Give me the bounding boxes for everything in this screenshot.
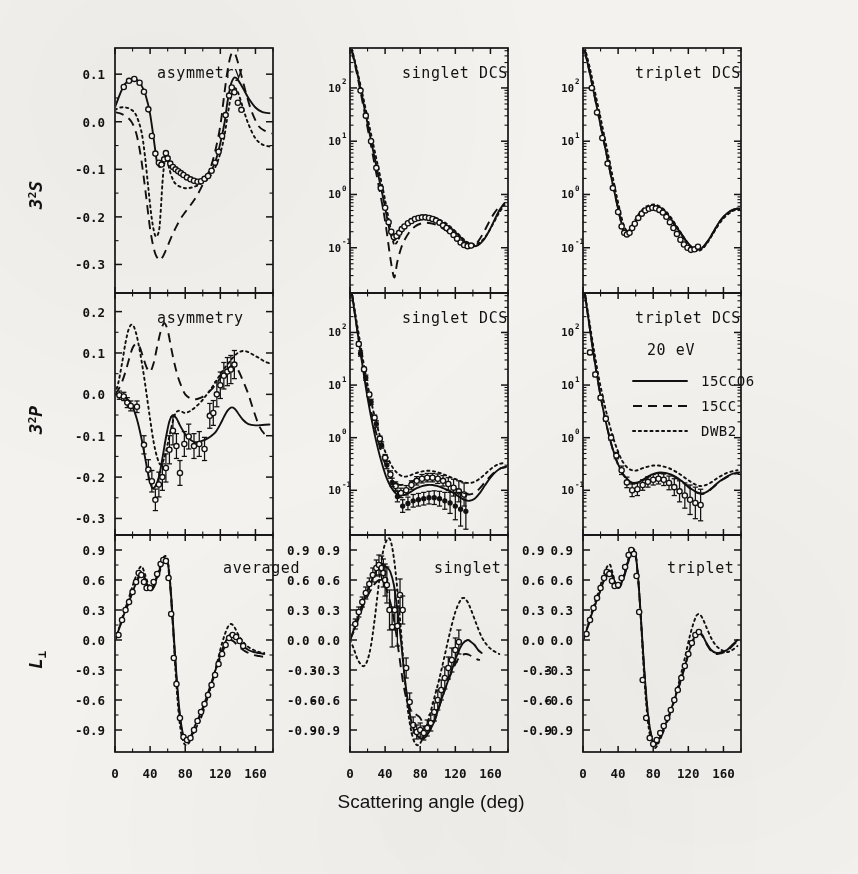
data-point bbox=[170, 428, 175, 433]
data-point bbox=[624, 480, 629, 485]
legend-label-15CCO6: 15CCO6 bbox=[701, 373, 755, 389]
log-tick-label: 10 bbox=[328, 484, 341, 496]
data-point bbox=[212, 160, 217, 165]
panel-frames bbox=[115, 48, 741, 752]
data-point bbox=[686, 651, 691, 656]
panel-title-3S-singlet-DCS: singlet DCS bbox=[402, 64, 508, 82]
data-point bbox=[616, 209, 621, 214]
ytick-label-dup: 0.3 bbox=[522, 603, 545, 618]
data-point bbox=[155, 571, 160, 576]
data-point bbox=[392, 607, 397, 612]
log-tick-exp: 0 bbox=[342, 427, 347, 436]
data-point bbox=[374, 165, 379, 170]
panel-title-3P-asymmetry: asymmetry bbox=[157, 309, 244, 327]
ytick-label: 0.9 bbox=[550, 543, 573, 558]
panel-title-Lperp-triplet: triplet bbox=[667, 559, 734, 577]
data-point bbox=[404, 665, 409, 670]
data-point bbox=[425, 475, 430, 480]
data-point bbox=[422, 497, 426, 501]
data-point bbox=[367, 392, 372, 397]
data-point bbox=[616, 582, 621, 587]
xtick-label: 40 bbox=[378, 766, 393, 781]
data-point bbox=[401, 504, 405, 508]
log-tick-exp: -1 bbox=[342, 237, 352, 246]
panel-frame-3S-triplet-DCS bbox=[583, 48, 741, 293]
data-point bbox=[364, 376, 368, 380]
xtick-label: 40 bbox=[611, 766, 626, 781]
data-point bbox=[167, 447, 172, 452]
ytick-label: -0.1 bbox=[75, 162, 105, 177]
log-tick-exp: -1 bbox=[342, 480, 352, 489]
data-point bbox=[209, 168, 214, 173]
data-point bbox=[358, 88, 363, 93]
data-point bbox=[453, 647, 458, 652]
data-point bbox=[416, 498, 420, 502]
log-tick-exp: 2 bbox=[342, 322, 347, 331]
axis-ticks bbox=[115, 48, 741, 752]
data-point bbox=[419, 476, 424, 481]
log-tick-exp: 1 bbox=[575, 375, 580, 384]
data-point bbox=[656, 476, 661, 481]
data-point bbox=[146, 467, 151, 472]
data-point bbox=[370, 572, 375, 577]
data-point bbox=[202, 446, 207, 451]
data-point bbox=[427, 496, 431, 500]
data-point bbox=[600, 135, 605, 140]
data-point bbox=[139, 572, 144, 577]
row-label-row-3s: 32S bbox=[25, 181, 46, 210]
curves bbox=[115, 47, 739, 748]
data-point bbox=[661, 723, 666, 728]
data-point bbox=[191, 727, 196, 732]
data-point bbox=[389, 229, 394, 234]
data-point bbox=[166, 575, 171, 580]
xtick-label: 120 bbox=[677, 766, 700, 781]
data-point bbox=[163, 151, 168, 156]
data-point bbox=[205, 173, 210, 178]
legend-energy: 20 eV bbox=[647, 341, 695, 359]
data-point bbox=[414, 478, 419, 483]
ytick-label: 0.0 bbox=[550, 633, 573, 648]
data-point bbox=[153, 497, 158, 502]
data-point bbox=[380, 443, 384, 447]
log-tick-label: 10 bbox=[328, 82, 341, 94]
points-3P-asymmetry bbox=[117, 351, 237, 511]
data-point bbox=[406, 501, 410, 505]
ytick-label: 0.1 bbox=[82, 67, 105, 82]
data-point bbox=[672, 485, 677, 490]
log-tick-label: 10 bbox=[561, 82, 574, 94]
data-point bbox=[658, 730, 663, 735]
xtick-label: 120 bbox=[209, 766, 232, 781]
ytick-label: 0.0 bbox=[317, 633, 340, 648]
data-point bbox=[409, 482, 414, 487]
data-point bbox=[666, 480, 671, 485]
data-point bbox=[219, 651, 224, 656]
xtick-label: 160 bbox=[479, 766, 502, 781]
data-point bbox=[148, 585, 153, 590]
data-point bbox=[677, 489, 682, 494]
data-point bbox=[228, 367, 233, 372]
log-tick-label: 10 bbox=[328, 432, 341, 444]
data-point bbox=[390, 480, 394, 484]
ytick-label: -0.2 bbox=[75, 470, 105, 485]
ytick-label: 0.0 bbox=[82, 115, 105, 130]
data-point bbox=[430, 475, 435, 480]
ytick-label: -0.2 bbox=[75, 210, 105, 225]
panel-frame-3S-singlet-DCS bbox=[350, 48, 508, 293]
ytick-label: 0.0 bbox=[82, 387, 105, 402]
data-point bbox=[440, 478, 445, 483]
data-point bbox=[369, 400, 373, 404]
curve-15CCO6 bbox=[115, 77, 269, 182]
panel-title-Lperp-singlet: singlet bbox=[434, 559, 501, 577]
panel-title-3P-singlet-DCS: singlet DCS bbox=[402, 309, 508, 327]
data-point bbox=[141, 442, 146, 447]
data-point bbox=[174, 443, 179, 448]
log-tick-label: 10 bbox=[328, 135, 341, 147]
legend-label-15CC: 15CC bbox=[701, 398, 737, 414]
data-point bbox=[654, 737, 659, 742]
data-point bbox=[626, 552, 631, 557]
data-point bbox=[356, 609, 361, 614]
data-point bbox=[679, 675, 684, 680]
data-point bbox=[137, 80, 142, 85]
data-point bbox=[153, 151, 158, 156]
data-point bbox=[126, 599, 131, 604]
